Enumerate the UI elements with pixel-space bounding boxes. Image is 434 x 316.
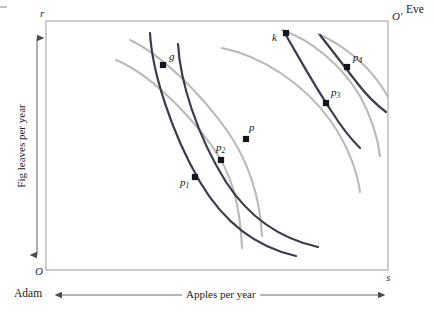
point-label-p-base: p — [249, 121, 255, 133]
adam-curve-4 — [320, 35, 386, 112]
agent-label-eve: Eve — [406, 4, 424, 16]
axis-corner-label-s: s — [386, 272, 390, 283]
point-label-k-base: k — [272, 31, 277, 43]
point-marker-p3 — [323, 100, 329, 106]
point-marker-p — [243, 136, 249, 142]
adam-curve-2 — [178, 44, 318, 247]
point-marker-p1 — [192, 174, 198, 180]
point-marker-p4 — [344, 64, 350, 70]
point-label-k: k — [272, 32, 277, 43]
point-label-p1-base: p — [180, 176, 186, 188]
diagram-canvas — [0, 0, 434, 316]
y-axis-title-wrap: Fig leaves per year — [10, 30, 32, 262]
point-label-p3-sub: 3 — [337, 91, 341, 100]
point-label-g-base: g — [169, 50, 175, 62]
point-label-p: p — [249, 122, 255, 133]
edgeworth-box-figure: r O O' s Adam Eve Apples per year Fig le… — [0, 0, 434, 316]
origin-label-adam: O — [35, 266, 43, 277]
point-label-p2: p2 — [216, 142, 225, 153]
point-label-p4-sub: 4 — [359, 56, 363, 65]
y-axis-title: Fig leaves per year — [15, 104, 27, 187]
point-label-p2-base: p — [216, 141, 222, 153]
point-label-g: g — [169, 51, 175, 62]
agent-label-adam: Adam — [14, 288, 42, 300]
adam-curve-3 — [284, 32, 360, 148]
point-label-p2-sub: 2 — [222, 146, 226, 155]
point-label-p3: p3 — [331, 87, 340, 98]
axis-corner-label-r: r — [40, 8, 44, 19]
point-marker-g — [160, 62, 166, 68]
origin-label-eve: O' — [392, 11, 402, 22]
indifference-curves — [116, 30, 394, 256]
point-label-p4-base: p — [353, 51, 359, 63]
eve-curve-2 — [130, 40, 262, 236]
point-label-p3-base: p — [331, 86, 337, 98]
point-label-p1-sub: 1 — [186, 181, 190, 190]
point-label-p1: p1 — [180, 177, 189, 188]
point-marker-k — [283, 30, 289, 36]
point-label-p4: p4 — [353, 52, 362, 63]
point-marker-p2 — [218, 157, 224, 163]
x-axis-title: Apples per year — [182, 289, 260, 300]
